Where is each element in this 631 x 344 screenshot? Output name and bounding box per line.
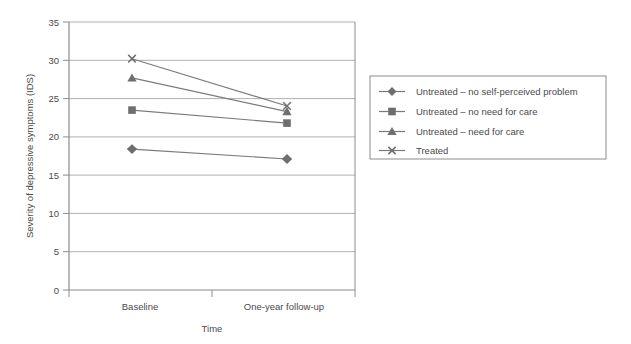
y-tick-label-10: 10 xyxy=(48,208,59,219)
marker-no-need-for-care-followup xyxy=(283,119,291,127)
y-axis-title: Severity of depressive symptoms (IDS) xyxy=(24,74,35,238)
legend-label-2: Untreated – no need for care xyxy=(416,106,537,117)
legend-label-1: Untreated – no self-perceived problem xyxy=(416,86,578,97)
y-tick-label-30: 30 xyxy=(48,55,59,66)
chart-figure: 35 30 25 20 15 10 5 0 Severity of depres… xyxy=(0,0,631,344)
figure-background xyxy=(0,0,631,344)
y-tick-label-25: 25 xyxy=(48,93,59,104)
y-tick-label-15: 15 xyxy=(48,170,59,181)
y-tick-label-5: 5 xyxy=(54,246,59,257)
square-marker-icon xyxy=(388,108,396,116)
chart-svg: 35 30 25 20 15 10 5 0 Severity of depres… xyxy=(0,0,631,344)
x-axis-title: Time xyxy=(202,323,223,334)
y-tick-label-20: 20 xyxy=(48,131,59,142)
x-tick-label-followup: One-year follow-up xyxy=(244,301,324,312)
y-tick-label-35: 35 xyxy=(48,17,59,28)
marker-no-need-for-care-baseline xyxy=(128,106,136,114)
legend-label-4: Treated xyxy=(416,145,448,156)
x-tick-label-baseline: Baseline xyxy=(122,301,158,312)
y-tick-label-0: 0 xyxy=(54,285,59,296)
legend-label-3: Untreated – need for care xyxy=(416,126,524,137)
chart-legend: Untreated – no self-perceived problem Un… xyxy=(370,76,606,159)
